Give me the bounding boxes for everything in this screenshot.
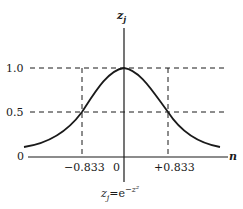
gaussian-diagram: zj n 1.0 0.5 0 −0.833 0 +0.833 zj=e−z² — [0, 0, 243, 209]
x-tick-neg: −0.833 — [64, 161, 105, 174]
x-tick-0: 0 — [113, 161, 120, 174]
y-tick-1: 1.0 — [6, 62, 24, 75]
y-tick-0: 0 — [17, 150, 24, 163]
x-axis-label: n — [229, 150, 237, 163]
formula-caption: zj=e−z² — [100, 185, 139, 202]
gaussian-curve — [24, 68, 220, 147]
x-tick-pos: +0.833 — [154, 161, 195, 174]
y-axis-label: zj — [116, 9, 126, 24]
y-tick-05: 0.5 — [6, 106, 24, 119]
